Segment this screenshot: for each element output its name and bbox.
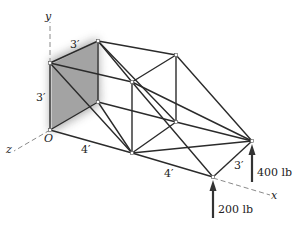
joint-F: [131, 152, 134, 155]
arrow-up-icon: [210, 180, 217, 191]
load-400lb: 400 lb: [249, 144, 293, 182]
member-EI: [176, 55, 252, 141]
dim-right-end-depth: 3′: [234, 159, 244, 172]
dim-front-bottom-second: 4′: [164, 167, 174, 180]
joint-G: [175, 121, 178, 124]
dim-front-bottom-first: 4′: [81, 143, 91, 156]
joint-E: [175, 54, 178, 57]
joint-A: [49, 62, 52, 65]
x-axis-label: x: [271, 189, 278, 202]
x-axis: [213, 178, 270, 195]
joint-D: [131, 81, 134, 84]
member-DI: [132, 82, 252, 141]
member-GI: [176, 122, 252, 141]
joint-H: [212, 176, 215, 179]
member-FI: [132, 141, 252, 153]
y-axis-label: y: [44, 10, 52, 23]
member-HI: [213, 141, 252, 177]
dim-left-height: 3′: [36, 91, 46, 104]
joint-O: [49, 129, 52, 132]
joint-C: [97, 101, 100, 104]
member-DE: [132, 55, 176, 82]
origin-label: O: [44, 132, 53, 145]
dim-top-left-depth: 3′: [70, 38, 80, 51]
arrow-up-icon: [249, 144, 256, 155]
coordinate-axes: y z x O: [5, 10, 278, 202]
member-DH: [132, 82, 213, 177]
load-400lb-label: 400 lb: [257, 166, 292, 179]
joint-I: [251, 140, 254, 143]
load-200lb-label: 200 lb: [218, 203, 253, 216]
load-200lb: 200 lb: [210, 180, 254, 218]
z-axis-label: z: [5, 143, 12, 156]
joint-B: [97, 40, 100, 43]
space-truss-diagram: y z x O: [0, 0, 308, 237]
